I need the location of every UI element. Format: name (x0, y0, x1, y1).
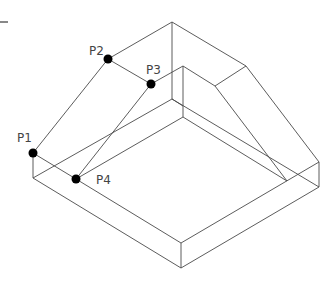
label-p1: P1 (17, 131, 32, 145)
label-p4: P4 (96, 173, 111, 187)
wireframe-edges (33, 22, 319, 268)
point-marker-p2 (104, 55, 113, 64)
point-marker-p3 (147, 80, 156, 89)
label-p2: P2 (89, 44, 104, 58)
point-p1: P1 (17, 131, 38, 158)
label-p3: P3 (146, 63, 161, 77)
point-marker-p4 (72, 175, 81, 184)
isometric-diagram: P1 P2 P3 P4 (0, 0, 335, 285)
point-p3: P3 (146, 63, 161, 89)
point-marker-p1 (29, 149, 38, 158)
point-p2: P2 (89, 44, 113, 64)
point-p4: P4 (72, 173, 111, 187)
